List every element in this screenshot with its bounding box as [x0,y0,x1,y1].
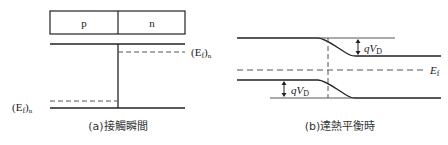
arrow-up-icon [282,81,287,85]
pn-junction-diagram: p n (Ef)n (Ef)n (a)接觸瞬間 qVD qVD Ef (b)達熱… [0,0,448,145]
conduction-band [237,38,441,56]
fermi-n-label: (Ef)n [191,46,212,60]
arrow-up-icon [356,39,361,43]
panel-b: qVD qVD Ef (b)達熱平衡時 [237,38,441,133]
p-label: p [81,17,87,29]
fermi-level-label: Ef [429,64,440,78]
fermi-p-label: (Ef)n [12,101,33,115]
panel-a: p n (Ef)n (Ef)n (a)接觸瞬間 [12,11,212,133]
qvd-lower-label: qVD [291,84,309,98]
n-label: n [149,17,155,29]
arrow-down-icon [356,51,361,55]
caption-a: (a)接觸瞬間 [88,119,147,133]
valence-band [237,80,441,98]
caption-b: (b)達熱平衡時 [305,120,376,133]
arrow-down-icon [282,93,287,97]
qvd-upper-label: qVD [364,42,382,56]
